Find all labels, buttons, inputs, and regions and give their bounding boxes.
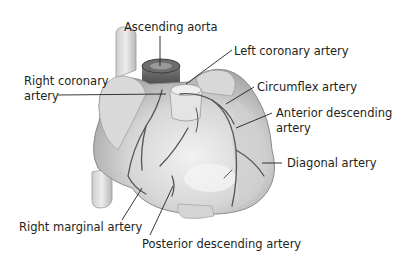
label-right-coronary-artery-line1: Right coronary [24, 74, 109, 88]
heart-body [93, 69, 274, 218]
label-right-coronary-artery-line2: artery [24, 89, 59, 103]
leader-right-marginal [122, 188, 142, 220]
label-diagonal-artery: Diagonal artery [287, 156, 377, 170]
label-posterior-descending-artery: Posterior descending artery [142, 237, 301, 251]
heart-diagram: Ascending aorta Left coronary artery Rig… [0, 0, 401, 260]
label-anterior-descending-line1: Anterior descending [276, 106, 392, 120]
label-anterior-descending-line2: artery [276, 121, 311, 135]
label-left-coronary-artery: Left coronary artery [234, 44, 349, 58]
label-circumflex-artery: Circumflex artery [257, 80, 357, 94]
label-right-marginal-artery: Right marginal artery [19, 220, 142, 234]
label-ascending-aorta: Ascending aorta [124, 20, 218, 34]
